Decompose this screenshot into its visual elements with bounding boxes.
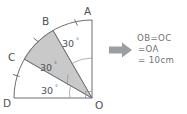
angle-label-cod: 30 <box>41 85 53 96</box>
arc-tick-ab <box>75 20 78 26</box>
angle-degree-cod: ° <box>55 83 58 90</box>
vertex-label-c: C <box>8 51 15 63</box>
vertex-label-d: D <box>3 97 11 109</box>
angle-label-boc: 30 <box>40 62 52 73</box>
note-block: OB=OC =OA = 10cm <box>137 33 187 66</box>
angle-degree-boc: ° <box>54 60 57 67</box>
note-line-2: =OA <box>137 44 187 55</box>
arc-tick-bc <box>34 38 39 42</box>
right-arrow-shape <box>109 43 132 58</box>
angle-arc-cod <box>69 87 70 99</box>
geometry-figure: A B C D O 30 ° 30 ° 30 ° <box>0 0 110 114</box>
angle-arc-aob <box>72 58 92 63</box>
vertex-label-a: A <box>84 5 92 17</box>
note-line-1: OB=OC <box>137 33 187 44</box>
shaded-sector-boc <box>24 30 92 98</box>
note-line-3: = 10cm <box>137 55 187 66</box>
vertex-label-b: B <box>42 15 49 27</box>
diagram-screenshot: A B C D O 30 ° 30 ° 30 ° OB=OC =OA = 10c… <box>0 0 187 114</box>
angle-degree-aob: ° <box>76 36 79 43</box>
vertex-label-o: O <box>95 99 103 111</box>
arc-tick-cd <box>13 75 20 77</box>
right-arrow-icon <box>108 40 134 60</box>
angle-label-aob: 30 <box>62 38 74 49</box>
